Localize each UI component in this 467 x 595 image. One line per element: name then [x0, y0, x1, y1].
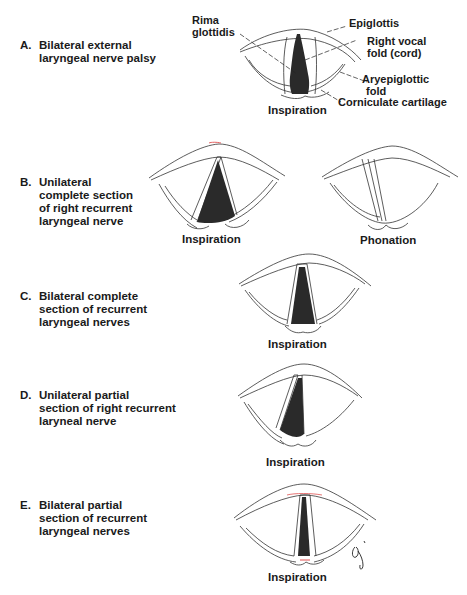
label-line: Bilateral external	[39, 39, 156, 52]
caption-phonation: Phonation	[360, 234, 416, 246]
annotation-rima-glottidis: Rima glottidis	[192, 14, 235, 38]
panel-letter: C.	[20, 290, 32, 303]
larynx-diagram-b-phonation	[320, 143, 460, 233]
panel-letter: E.	[20, 499, 31, 512]
panel-c-label: C. Bilateral complete section of recurre…	[20, 290, 147, 329]
panel-b-label: B. Unilateral complete section of right …	[20, 176, 133, 228]
label-line: section of right recurrent	[39, 402, 176, 415]
annotation-aryepiglottic-fold: Aryepiglottic fold	[362, 73, 429, 97]
larynx-diagram-b-inspiration	[147, 140, 287, 230]
panel-e-label: E. Bilateral partial section of recurren…	[20, 499, 147, 538]
caption-inspiration: Inspiration	[268, 338, 327, 350]
label-line: section of recurrent	[39, 303, 147, 316]
label-line: of right recurrent	[39, 202, 133, 215]
label-line: laryngeal nerve palsy	[39, 52, 156, 65]
panel-a-label: A. Bilateral external laryngeal nerve pa…	[20, 39, 156, 65]
label-line: laryngeal nerves	[39, 316, 147, 329]
label-line: laryneal nerve	[39, 415, 176, 428]
caption-inspiration: Inspiration	[268, 571, 327, 583]
annotation-right-vocal-fold: Right vocal fold (cord)	[367, 35, 426, 59]
label-line: Unilateral partial	[39, 389, 176, 402]
larynx-diagram-d	[236, 362, 366, 452]
larynx-diagram-c	[237, 252, 377, 337]
label-line: Bilateral partial	[39, 499, 147, 512]
panel-letter: D.	[20, 389, 32, 402]
label-line: Bilateral complete	[39, 290, 147, 303]
larynx-diagram-a	[235, 22, 365, 102]
artist-signature	[350, 537, 372, 573]
label-line: Unilateral	[39, 176, 133, 189]
caption-inspiration: Inspiration	[268, 104, 327, 116]
annotation-epiglottis: Epiglottis	[349, 17, 399, 29]
caption-inspiration: Inspiration	[182, 233, 241, 245]
label-line: laryngeal nerve	[39, 215, 133, 228]
label-line: section of recurrent	[39, 512, 147, 525]
panel-letter: A.	[20, 39, 32, 52]
annotation-corniculate-cartilage: Corniculate cartilage	[338, 96, 447, 108]
caption-inspiration: Inspiration	[266, 456, 325, 468]
panel-letter: B.	[20, 176, 32, 189]
panel-d-label: D. Unilateral partial section of right r…	[20, 389, 176, 428]
label-line: complete section	[39, 189, 133, 202]
label-line: laryngeal nerves	[39, 525, 147, 538]
